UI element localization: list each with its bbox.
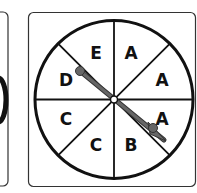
pointer-pivot xyxy=(111,96,118,103)
section-label-left-lower: C xyxy=(60,109,72,129)
section-label-top-left: E xyxy=(90,43,102,63)
pointer-tail-knob xyxy=(76,67,85,76)
section-label-bottom-right: B xyxy=(125,135,138,155)
spinner-diagram: A A A B C C D E xyxy=(0,0,197,193)
section-label-left-upper: D xyxy=(59,70,73,90)
section-label-top-right: A xyxy=(124,43,138,63)
section-label-right-upper: A xyxy=(155,70,169,90)
left-panel-partial-circle xyxy=(0,78,6,122)
section-label-bottom-left: C xyxy=(90,135,102,155)
